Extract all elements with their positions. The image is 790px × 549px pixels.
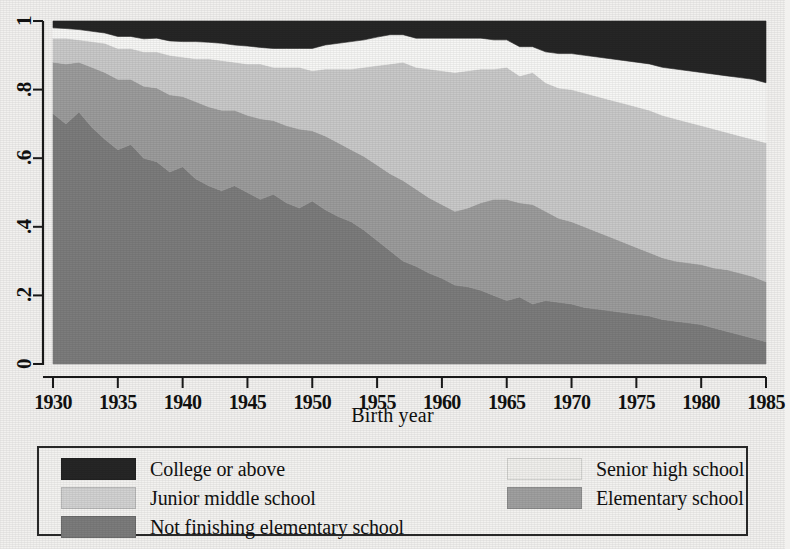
y-tick-label: .2 xyxy=(14,279,35,311)
legend-swatch xyxy=(61,516,136,538)
x-axis-title: Birth year xyxy=(0,404,785,427)
y-tick-label: .8 xyxy=(14,74,35,106)
legend-swatch xyxy=(61,458,136,480)
legend-label: College or above xyxy=(150,458,285,481)
area-bands-group xyxy=(53,21,766,364)
legend-item[interactable]: Junior middle school xyxy=(61,485,316,511)
legend-item[interactable]: Senior high school xyxy=(507,456,744,482)
legend-label: Not finishing elementary school xyxy=(150,516,404,539)
legend-swatch xyxy=(507,458,582,480)
legend-swatch xyxy=(61,487,136,509)
legend-label: Senior high school xyxy=(596,458,744,481)
legend-item[interactable]: College or above xyxy=(61,456,285,482)
y-tick-label: 0 xyxy=(14,348,35,380)
chart-legend: College or aboveSenior high schoolJunior… xyxy=(37,446,748,536)
legend-item[interactable]: Not finishing elementary school xyxy=(61,514,404,540)
legend-label: Junior middle school xyxy=(150,487,316,510)
y-tick-label: 1 xyxy=(14,5,35,37)
y-tick-label: .6 xyxy=(14,142,35,174)
y-tick-label: .4 xyxy=(14,211,35,243)
legend-label: Elementary school xyxy=(596,487,744,510)
legend-item[interactable]: Elementary school xyxy=(507,485,744,511)
legend-swatch xyxy=(507,487,582,509)
